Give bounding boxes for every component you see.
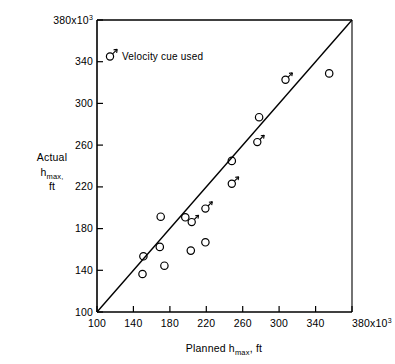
y-axis-title-line3: ft	[49, 180, 55, 192]
legend-marker-mars-symbol	[106, 49, 117, 60]
chart-canvas: 380x103 340 300 260 220 180 140 100 100 …	[0, 0, 395, 364]
x-axis-tick-labels: 100 140 180 220 260 300 340 380x103	[88, 317, 392, 329]
x-tick-label-140: 140	[124, 317, 142, 329]
data-point	[157, 213, 164, 220]
y-axis-title-line1: Actual	[37, 151, 67, 163]
data-point	[202, 239, 209, 246]
legend: Velocity cue used	[106, 49, 203, 62]
x-tick-label-180: 180	[161, 317, 179, 329]
data-point	[182, 214, 189, 221]
legend-label-velocity-cue: Velocity cue used	[122, 51, 203, 62]
y-axis-title: Actual hmax, ft	[37, 151, 67, 192]
x-tick-label-340: 340	[307, 317, 325, 329]
y-axis-tick-labels: 380x103 340 300 260 220 180 140 100	[53, 14, 93, 318]
x-tick-label-260: 260	[234, 317, 252, 329]
data-point	[254, 135, 265, 146]
y-tick-label-220: 220	[75, 180, 93, 192]
data-point	[188, 215, 199, 226]
x-tick-label-380: 380x103	[352, 317, 392, 329]
x-axis-title: Planned hmax, ft	[186, 342, 262, 357]
y-tick-label-140: 140	[75, 264, 93, 276]
one-to-one-reference-line	[97, 20, 352, 312]
data-point	[202, 202, 213, 213]
y-tick-label-180: 180	[75, 222, 93, 234]
y-tick-label-260: 260	[75, 139, 93, 151]
x-tick-label-300: 300	[270, 317, 288, 329]
y-tick-label-340: 340	[75, 55, 93, 67]
series-velocity-cue-used	[188, 73, 292, 226]
data-point	[255, 114, 262, 121]
data-point	[187, 247, 194, 254]
data-point	[139, 270, 146, 277]
y-tick-label-300: 300	[75, 97, 93, 109]
series-no-velocity-cue	[139, 70, 333, 278]
x-tick-label-220: 220	[197, 317, 215, 329]
x-tick-label-100: 100	[88, 317, 106, 329]
y-tick-label-380: 380x103	[53, 14, 93, 26]
y-tick-label-100: 100	[75, 306, 93, 318]
scatter-chart-figure: 380x103 340 300 260 220 180 140 100 100 …	[0, 0, 395, 364]
y-axis-title-line2: hmax,	[40, 166, 63, 181]
x-axis-ticks	[97, 306, 352, 312]
data-point	[326, 70, 333, 77]
data-point	[282, 73, 293, 83]
data-point	[156, 243, 163, 250]
data-point	[161, 262, 168, 269]
y-axis-ticks	[97, 20, 103, 312]
data-point	[228, 177, 239, 187]
